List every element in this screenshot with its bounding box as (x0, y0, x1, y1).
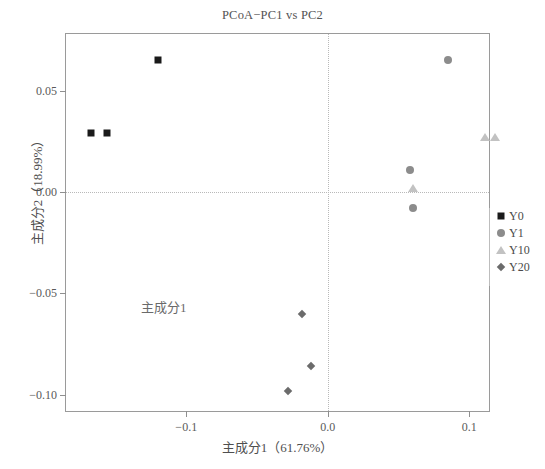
plot-annotation: 主成分1 (141, 297, 187, 316)
reference-line-horizontal (66, 192, 489, 193)
legend-label: Y1 (509, 227, 524, 239)
legend: Y0Y1Y10Y20 (495, 208, 545, 276)
y-axis-tick (60, 91, 66, 92)
data-point-y1[interactable] (444, 56, 452, 64)
data-point-y1[interactable] (406, 166, 414, 174)
legend-label: Y0 (509, 210, 524, 222)
y-axis-label: 主成分2（18.99%） (27, 70, 46, 310)
data-point-y0[interactable] (104, 130, 111, 137)
triangle-marker-icon (495, 245, 506, 256)
legend-label: Y20 (509, 261, 530, 273)
pcoa-scatter-figure: PCoA−PC1 vs PC2 0.050.00−0.05−0.10−0.10.… (0, 0, 545, 469)
x-axis-tick (469, 411, 470, 417)
data-point-y20[interactable] (298, 309, 306, 317)
y-axis-tick-label: −0.10 (29, 387, 57, 402)
data-point-y0[interactable] (154, 57, 161, 64)
data-point-y10[interactable] (490, 133, 500, 141)
legend-item-y0[interactable]: Y0 (495, 208, 545, 224)
reference-line-vertical (328, 34, 329, 411)
x-axis-tick-label: 0.1 (462, 420, 477, 435)
data-point-y10[interactable] (408, 184, 418, 192)
circle-marker-icon (495, 228, 506, 239)
legend-item-y1[interactable]: Y1 (495, 225, 545, 241)
y-axis-tick (60, 192, 66, 193)
data-point-y20[interactable] (284, 386, 292, 394)
y-axis-tick (60, 395, 66, 396)
x-axis-tick (186, 411, 187, 417)
legend-divider (489, 208, 490, 286)
data-point-y10[interactable] (480, 133, 490, 141)
x-axis-tick-label: 0.0 (320, 420, 335, 435)
square-marker-icon (495, 211, 506, 222)
diamond-marker-icon (495, 262, 506, 273)
plot-area: 0.050.00−0.05−0.10−0.10.00.1主成分1 (65, 33, 490, 412)
legend-item-y10[interactable]: Y10 (495, 242, 545, 258)
data-point-y20[interactable] (306, 362, 314, 370)
x-axis-tick (328, 411, 329, 417)
legend-item-y20[interactable]: Y20 (495, 259, 545, 275)
x-axis-label: 主成分1（61.76%） (65, 437, 490, 456)
y-axis-tick (60, 293, 66, 294)
chart-title: PCoA−PC1 vs PC2 (0, 8, 545, 23)
data-point-y0[interactable] (88, 130, 95, 137)
legend-label: Y10 (509, 244, 530, 256)
x-axis-tick-label: −0.1 (175, 420, 197, 435)
data-point-y1[interactable] (409, 204, 417, 212)
